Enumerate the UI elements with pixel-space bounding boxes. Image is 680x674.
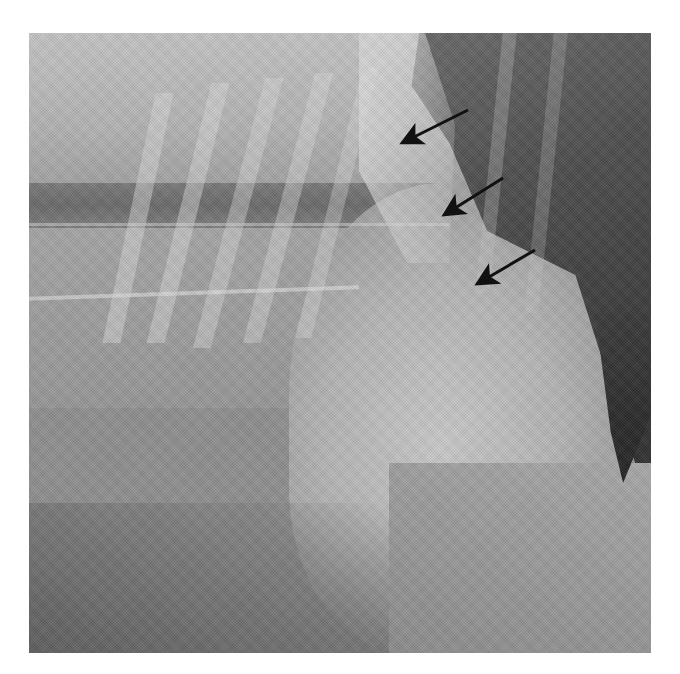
horizontal-line-structure-2 — [29, 223, 449, 226]
lower-right-region — [389, 463, 651, 653]
lower-dark-region — [29, 503, 389, 653]
radiograph-image — [29, 33, 651, 653]
